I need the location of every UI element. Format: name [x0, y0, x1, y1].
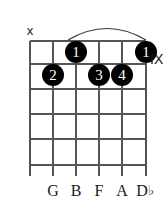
- note-label-string-6-note: D: [136, 182, 148, 199]
- note-label-string-6-accidental: ♭: [148, 183, 154, 198]
- note-label-string-5: A: [111, 183, 133, 199]
- note-label-string-3-note: B: [71, 182, 82, 199]
- note-label-string-5-note: A: [116, 182, 128, 199]
- note-label-string-2: G: [42, 183, 64, 199]
- finger-dot-string4-fret2: 3: [88, 64, 110, 86]
- chord-diagram: x 1 1 2 3 4 IX G B: [0, 0, 167, 210]
- barre-arc: [68, 29, 146, 41]
- note-label-string-2-note: G: [47, 182, 59, 199]
- fretboard-grid: [0, 0, 167, 210]
- finger-dot-string2-fret2: 2: [42, 64, 64, 86]
- note-label-string-4-note: F: [95, 182, 104, 199]
- fret-position-label: IX: [150, 52, 163, 66]
- finger-dot-string5-fret2: 4: [111, 64, 133, 86]
- note-label-string-4: F: [88, 183, 110, 199]
- note-label-string-6: D♭: [134, 183, 156, 199]
- note-label-string-3: B: [65, 183, 87, 199]
- finger-dot-string3-fret1: 1: [65, 41, 87, 63]
